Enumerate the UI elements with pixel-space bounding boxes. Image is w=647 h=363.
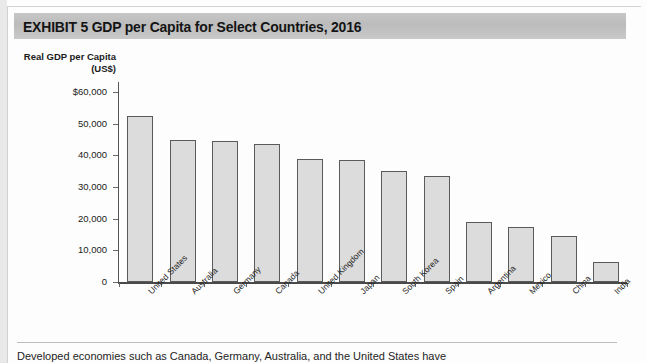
y-tick-mark [113, 282, 118, 283]
bar [466, 222, 492, 282]
bar [551, 236, 577, 282]
y-axis-title-line2: (US$) [8, 63, 116, 75]
y-axis-title-line1: Real GDP per Capita [8, 51, 116, 63]
bar [212, 141, 238, 282]
body-caption: Developed economies such as Canada, Germ… [17, 350, 617, 362]
bar [127, 116, 153, 282]
bar-chart: Real GDP per Capita (US$) $60,00050,0004… [0, 0, 647, 363]
y-tick-label: 50,000 [7, 118, 107, 129]
y-axis-line [118, 82, 119, 282]
x-axis-label: Mexico [527, 289, 534, 296]
y-tick-mark [113, 155, 118, 156]
x-axis-label: United States [146, 289, 153, 296]
bar [254, 144, 280, 282]
x-axis-label: Australia [189, 289, 196, 296]
y-axis-title: Real GDP per Capita (US$) [8, 51, 116, 75]
y-tick-mark [113, 124, 118, 125]
x-axis-label: Japan [358, 289, 365, 296]
y-tick-label: 40,000 [7, 149, 107, 160]
y-tick-label: 30,000 [7, 181, 107, 192]
bar [381, 171, 407, 282]
x-axis-label: Canada [273, 289, 280, 296]
x-axis-label: United Kingdom [316, 289, 323, 296]
y-tick-mark [113, 250, 118, 251]
y-tick-label: 0 [7, 276, 107, 287]
bar [297, 159, 323, 283]
y-tick-mark [113, 219, 118, 220]
x-axis-label: Argentina [485, 289, 492, 296]
y-tick-label: $60,000 [7, 86, 107, 97]
caption-divider [17, 342, 617, 343]
x-axis-label: India [612, 289, 619, 296]
x-tick-mark [119, 283, 120, 287]
y-tick-label: 10,000 [7, 244, 107, 255]
x-axis-label: China [570, 289, 577, 296]
y-tick-mark [113, 187, 118, 188]
x-axis-label: South Korea [400, 289, 407, 296]
x-axis-label: Germany [231, 289, 238, 296]
x-axis-label: Spain [443, 289, 450, 296]
y-tick-mark [113, 92, 118, 93]
bar [593, 262, 619, 282]
y-tick-label: 20,000 [7, 213, 107, 224]
